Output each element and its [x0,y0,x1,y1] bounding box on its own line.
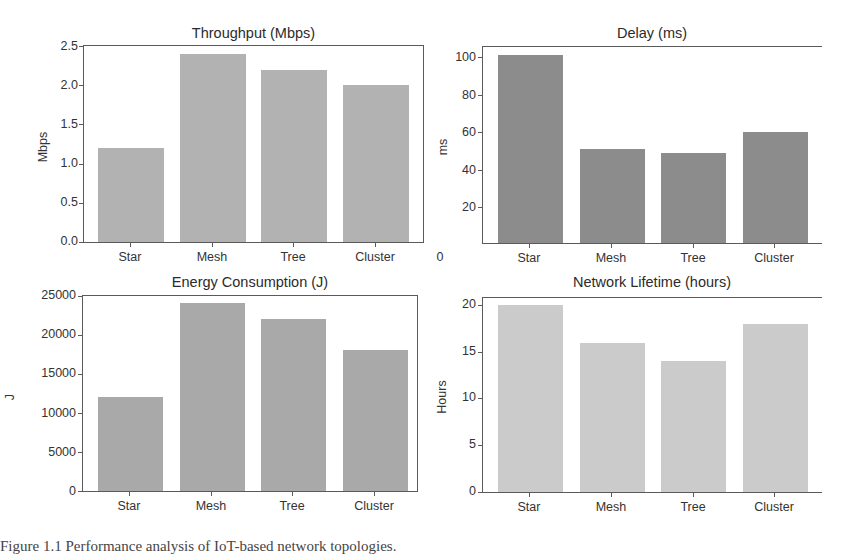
bar-mesh [580,343,645,492]
plot-area [83,45,424,243]
y-tick: 25000 [16,288,76,302]
x-tick: Mesh [172,250,252,264]
x-tick: Cluster [334,499,414,513]
bar-cluster [343,350,408,491]
bar-mesh [180,303,245,491]
bar-tree [261,70,327,242]
y-tick: 1.0 [18,156,78,170]
y-tick: 5000 [16,445,76,459]
y-tick: 0.5 [18,195,78,209]
bar-cluster [343,85,409,242]
bar-cluster [743,324,808,492]
bar-tree [261,319,326,491]
x-tick: Star [90,250,170,264]
x-tick: Star [89,499,169,513]
y-tick: 5 [416,437,476,451]
plot-area [82,295,418,492]
y-tick: 20 [416,297,476,311]
y-tick: 15 [416,344,476,358]
y-axis-label: J [3,357,17,437]
bar-star [498,305,563,492]
y-tick: 80 [416,88,476,102]
y-tick: 15000 [16,366,76,380]
plot-area [482,297,822,493]
chart-title: Throughput (Mbps) [83,25,424,41]
bar-mesh [580,149,645,243]
x-tick: Cluster [335,250,415,264]
bar-mesh [180,54,246,242]
x-tick: Tree [653,251,733,265]
y-tick: 60 [416,125,476,139]
y-tick: 10000 [16,406,76,420]
chart-title: Energy Consumption (J) [82,274,418,290]
x-tick: Tree [253,250,333,264]
y-tick: 1.5 [18,117,78,131]
x-tick: Tree [653,500,733,514]
x-tick: Star [489,251,569,265]
chart-title: Delay (ms) [482,25,822,41]
y-tick: 2.0 [18,78,78,92]
y-tick: 0 [16,484,76,498]
x-tick: Mesh [171,499,251,513]
y-tick: 100 [416,50,476,64]
bar-tree [661,361,726,492]
x-tick: Tree [252,499,332,513]
bar-star [98,148,164,242]
bar-tree [661,153,726,243]
chart-title: Network Lifetime (hours) [482,274,822,290]
x-tick: Mesh [571,251,651,265]
bar-star [498,55,563,243]
origin-label: 0 [428,250,452,264]
bar-star [98,397,163,491]
x-tick: Star [489,500,569,514]
y-tick: 40 [416,163,476,177]
x-tick: Mesh [571,500,651,514]
x-tick: Cluster [734,251,814,265]
y-tick: 0.0 [18,234,78,248]
plot-area [482,46,822,244]
y-tick: 10 [416,390,476,404]
y-tick: 20000 [16,327,76,341]
y-tick: 2.5 [18,39,78,53]
x-tick: Cluster [734,500,814,514]
bar-cluster [743,132,808,243]
y-tick: 20 [416,200,476,214]
y-tick: 0 [416,484,476,498]
figure-caption: Figure 1.1 Performance analysis of IoT-b… [0,538,396,555]
